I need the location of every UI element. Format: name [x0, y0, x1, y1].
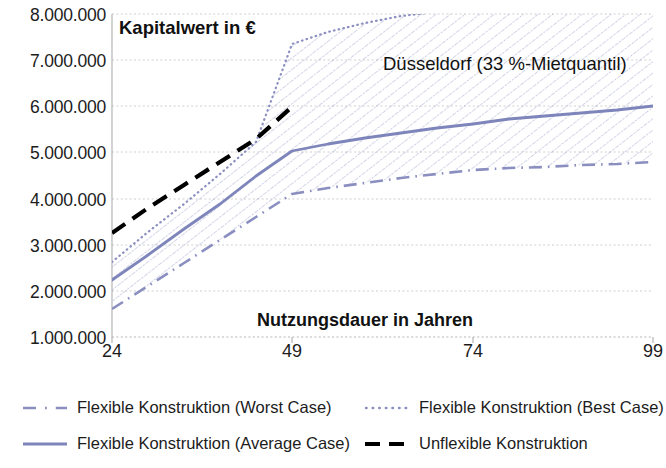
legend-label: Flexible Konstruktion (Worst Case)	[77, 398, 332, 417]
plot-area: 8.000.000 7.000.000 6.000.000 5.000.000 …	[0, 0, 666, 390]
legend-label: Flexible Konstruktion (Average Case)	[77, 434, 350, 453]
chart-annotation: Düsseldorf (33 %-Mietquantil)	[383, 53, 627, 75]
x-tick-label: 24	[82, 341, 142, 362]
y-tick-label: 4.000.000	[0, 190, 106, 211]
legend-key-dashed-icon	[364, 437, 410, 451]
legend-label: Unflexible Konstruktion	[419, 434, 588, 453]
x-tickmarks	[112, 337, 653, 343]
legend-label: Flexible Konstruktion (Best Case)	[419, 398, 664, 417]
legend-item-worst-case[interactable]: Flexible Konstruktion (Worst Case)	[22, 398, 332, 417]
legend-key-dashdot-icon	[22, 401, 68, 415]
x-tick-label: 74	[443, 341, 503, 362]
y-axis-title: Kapitalwert in €	[119, 17, 256, 39]
y-tick-label: 2.000.000	[0, 282, 106, 303]
y-tick-label: 8.000.000	[0, 5, 106, 26]
legend-item-best-case[interactable]: Flexible Konstruktion (Best Case)	[364, 398, 664, 417]
x-tick-label: 99	[623, 341, 666, 362]
y-tick-label: 5.000.000	[0, 143, 106, 164]
legend-key-solid-icon	[22, 437, 68, 451]
y-tick-label: 3.000.000	[0, 236, 106, 257]
legend-item-unflexible[interactable]: Unflexible Konstruktion	[364, 434, 588, 453]
uncertainty-band	[112, 0, 653, 309]
y-tick-label: 7.000.000	[0, 51, 106, 72]
chart-legend: Flexible Konstruktion (Worst Case) Flexi…	[0, 396, 666, 468]
legend-key-dotted-icon	[364, 401, 410, 415]
x-tick-label: 49	[262, 341, 322, 362]
y-tick-label: 6.000.000	[0, 97, 106, 118]
x-axis-title: Nutzungsdauer in Jahren	[257, 310, 473, 331]
chart-figure: 8.000.000 7.000.000 6.000.000 5.000.000 …	[0, 0, 666, 468]
legend-item-average-case[interactable]: Flexible Konstruktion (Average Case)	[22, 434, 350, 453]
